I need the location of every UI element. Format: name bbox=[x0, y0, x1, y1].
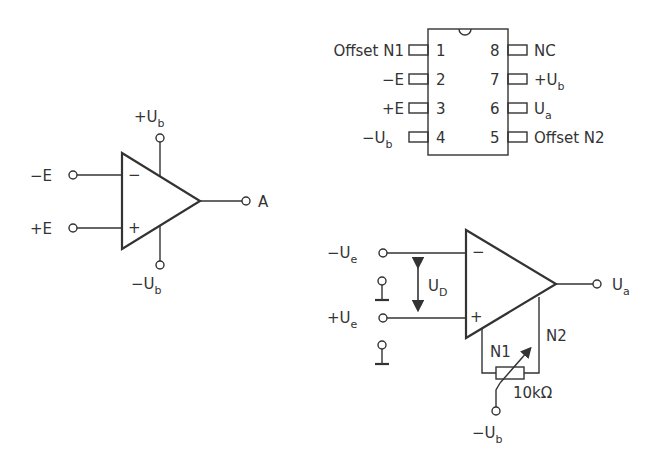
terminal-supply-neg-2 bbox=[492, 407, 500, 415]
label-minus-e: −E bbox=[30, 167, 52, 185]
pin-3-number: 3 bbox=[436, 100, 446, 118]
offset-circuit: − + −Ue +Ue UD Ua N1 N2 10kΩ −Ub bbox=[327, 230, 630, 446]
label-supply-neg-2: −Ub bbox=[472, 424, 503, 446]
sign-minus-2: − bbox=[472, 243, 485, 261]
ground-terminal-1 bbox=[378, 277, 386, 285]
label-output: A bbox=[258, 193, 269, 211]
pin-1-label: Offset N1 bbox=[333, 42, 404, 60]
ground-terminal-2 bbox=[378, 341, 386, 349]
pin-3-label: +E bbox=[382, 100, 404, 118]
label-n1: N1 bbox=[490, 343, 511, 361]
pin-6-label: Ua bbox=[534, 100, 552, 122]
terminal-minus-e bbox=[69, 171, 77, 179]
opamp-symbol: −E +E − + A +Ub −Ub bbox=[30, 108, 269, 297]
opamp-diagram: −E +E − + A +Ub −Ub 1 2 3 4 Offset N1 −E… bbox=[0, 0, 667, 471]
label-noninv-input: +Ue bbox=[327, 309, 358, 331]
pin-7-label: +Ub bbox=[534, 71, 565, 93]
pin-5-number: 5 bbox=[490, 129, 500, 147]
pin-5-label: Offset N2 bbox=[534, 129, 605, 147]
terminal-noninv-input bbox=[379, 314, 387, 322]
pin-7-number: 7 bbox=[490, 71, 500, 89]
label-plus-e: +E bbox=[30, 220, 52, 238]
label-n2: N2 bbox=[546, 327, 567, 345]
label-output-2: Ua bbox=[612, 276, 630, 298]
pin-8-number: 8 bbox=[490, 42, 500, 60]
pin-2-number: 2 bbox=[436, 71, 446, 89]
ic-notch bbox=[459, 29, 471, 35]
sign-minus: − bbox=[128, 166, 141, 184]
label-supply-pos: +Ub bbox=[134, 108, 165, 130]
potentiometer bbox=[496, 367, 524, 379]
label-supply-neg: −Ub bbox=[131, 275, 162, 297]
terminal-plus-e bbox=[69, 224, 77, 232]
label-inv-input: −Ue bbox=[327, 244, 358, 266]
terminal-output-2 bbox=[593, 280, 601, 288]
pin-6-number: 6 bbox=[490, 100, 500, 118]
terminal-output bbox=[242, 197, 250, 205]
sign-plus: + bbox=[128, 219, 141, 237]
label-pot-value: 10kΩ bbox=[513, 384, 552, 402]
terminal-supply-neg bbox=[156, 261, 164, 269]
pin-4-number: 4 bbox=[436, 129, 446, 147]
terminal-supply-pos bbox=[156, 134, 164, 142]
terminal-inv-input bbox=[379, 249, 387, 257]
sign-plus-2: + bbox=[470, 308, 483, 326]
pin-4-label: −Ub bbox=[362, 129, 393, 151]
label-diff-voltage: UD bbox=[428, 277, 447, 299]
pin-1-number: 1 bbox=[436, 42, 446, 60]
pin-2-label: −E bbox=[382, 71, 404, 89]
pin-8-label: NC bbox=[534, 42, 556, 60]
dip8-pinout: 1 2 3 4 Offset N1 −E +E −Ub 8 7 6 5 NC +… bbox=[333, 29, 604, 155]
